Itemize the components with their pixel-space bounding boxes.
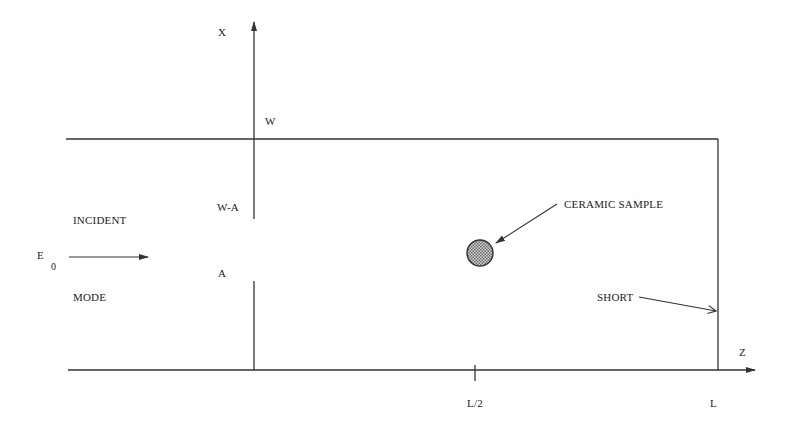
field-symbol: E — [37, 249, 44, 261]
incident-label: INCIDENT — [73, 214, 127, 226]
mark-w-minus-a: W-A — [217, 201, 239, 213]
mark-half-length: L/2 — [467, 397, 483, 409]
mark-w: W — [265, 115, 276, 127]
ceramic-sample — [467, 240, 493, 266]
mode-label: MODE — [73, 291, 106, 303]
field-subscript: 0 — [51, 261, 56, 273]
short-label: SHORT — [597, 291, 633, 303]
ceramic-sample-callout-arrow — [496, 204, 557, 243]
mark-a: A — [218, 267, 226, 279]
diagram-canvas: X Z W W-A A L/2 L INCIDENT E 0 MODE CERA… — [0, 0, 789, 433]
short-callout-arrow — [639, 297, 716, 311]
z-axis-label: Z — [739, 346, 746, 358]
ceramic-sample-label: CERAMIC SAMPLE — [564, 198, 663, 210]
mark-length: L — [710, 397, 717, 409]
x-axis-label: X — [218, 26, 226, 38]
